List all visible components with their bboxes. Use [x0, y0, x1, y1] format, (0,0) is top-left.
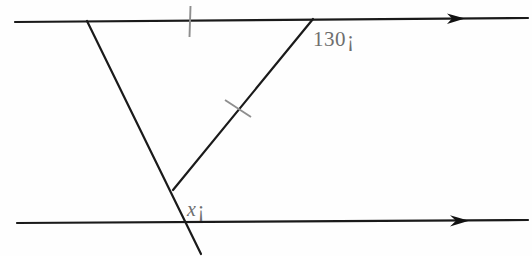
degree-glyph-icon: ¡ — [196, 197, 205, 221]
bottom-parallel-line — [17, 220, 528, 223]
congruence-tick-slanted-segment-icon — [225, 100, 251, 117]
degree-glyph-icon: ¡ — [346, 27, 355, 51]
slanted-segment — [173, 19, 313, 190]
angle-label-130-value: 130 — [313, 27, 346, 51]
geometry-diagram: 130¡ x¡ — [0, 0, 532, 256]
congruence-tick-top-line-icon — [190, 6, 191, 37]
transversal-line — [87, 21, 201, 254]
angle-label-130: 130¡ — [313, 29, 355, 50]
geometry-canvas — [0, 0, 532, 256]
angle-label-x-value: x — [187, 198, 196, 220]
angle-label-x: x¡ — [187, 199, 205, 220]
